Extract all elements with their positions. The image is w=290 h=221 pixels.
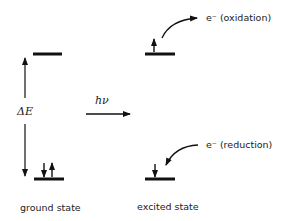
oxidation-arrow — [162, 18, 197, 38]
excited-state-label: excited state — [137, 201, 199, 212]
energy-diagram: ΔE hν e⁻ (oxidation) e⁻ (reduction) grou… — [0, 0, 290, 221]
photon-label: hν — [95, 94, 109, 107]
delta-e-label: ΔE — [16, 105, 33, 118]
oxidation-label: e⁻ (oxidation) — [206, 12, 271, 23]
reduction-arrow — [166, 145, 198, 165]
ground-state-label: ground state — [20, 202, 81, 213]
reduction-label: e⁻ (reduction) — [206, 139, 272, 150]
